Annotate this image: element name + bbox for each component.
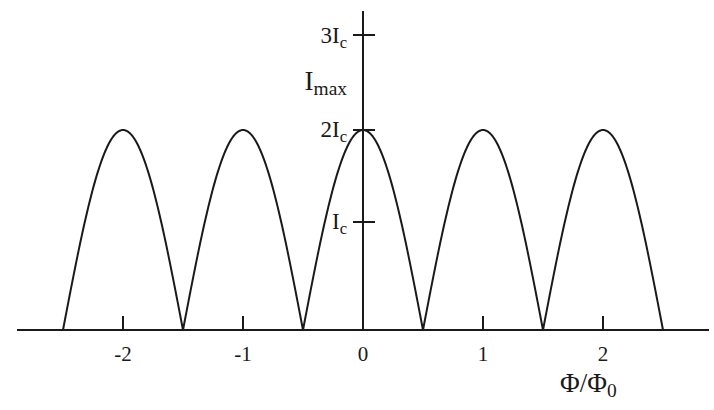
- interference-lobe: [543, 130, 663, 330]
- interference-lobe: [423, 130, 543, 330]
- interference-lobe: [183, 130, 303, 330]
- y-tick-label-2ic: 2Ic: [320, 117, 347, 146]
- x-tick-label--2: -2: [114, 342, 132, 366]
- interference-lobe: [63, 130, 183, 330]
- x-tick-label-1: 1: [478, 342, 489, 366]
- x-tick-label-0: 0: [358, 342, 369, 366]
- x-tick-label-2: 2: [598, 342, 609, 366]
- plot-canvas: -2 -1 0 1 2 3Ic 2Ic Ic Imax Φ/Φ0: [0, 0, 714, 410]
- x-tick-label--1: -1: [234, 342, 252, 366]
- x-axis-title: Φ/Φ0: [560, 368, 617, 401]
- y-tick-label-1ic: Ic: [332, 209, 347, 238]
- squid-interference-figure: -2 -1 0 1 2 3Ic 2Ic Ic Imax Φ/Φ0: [0, 0, 714, 410]
- y-tick-label-3ic: 3Ic: [320, 23, 347, 52]
- y-axis-title: Imax: [305, 66, 348, 99]
